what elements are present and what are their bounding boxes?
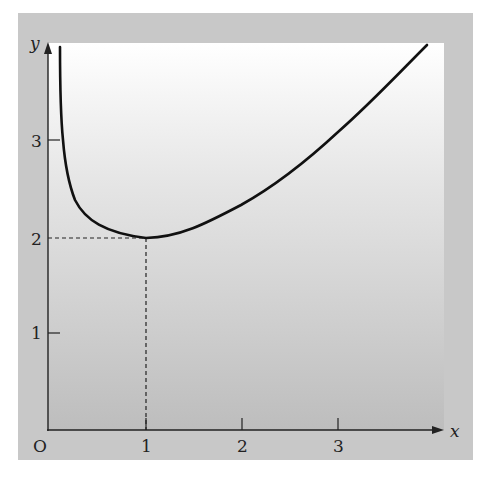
x-axis-label: x bbox=[450, 421, 460, 441]
y-axis-label: y bbox=[29, 33, 40, 53]
x-tick-label-2: 2 bbox=[237, 436, 248, 456]
y-tick-label-2: 2 bbox=[31, 229, 42, 249]
x-tick-label-1: 1 bbox=[141, 436, 152, 456]
chart: y x O 1 2 3 1 2 3 bbox=[0, 0, 484, 479]
y-tick-label-3: 3 bbox=[31, 131, 42, 151]
origin-label: O bbox=[33, 436, 47, 456]
plot-area bbox=[48, 43, 444, 430]
y-tick-label-1: 1 bbox=[31, 323, 42, 343]
x-tick-label-3: 3 bbox=[333, 436, 344, 456]
